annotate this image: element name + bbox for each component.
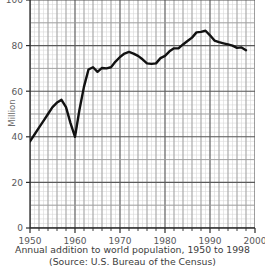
svg-text:0: 0 bbox=[17, 223, 23, 233]
svg-text:80: 80 bbox=[12, 41, 24, 51]
svg-text:20: 20 bbox=[12, 178, 24, 188]
x-axis-ticks bbox=[30, 228, 255, 233]
chart-caption-line-1: Annual addition to world population, 195… bbox=[0, 244, 265, 255]
y-axis-title: Million bbox=[7, 83, 17, 143]
chart-figure: 020406080100 195019601970198019902000 Mi… bbox=[0, 0, 265, 269]
line-chart-plot: 020406080100 195019601970198019902000 bbox=[0, 0, 265, 269]
svg-text:100: 100 bbox=[6, 0, 23, 5]
chart-caption-line-2: (Source: U.S. Bureau of the Census) bbox=[0, 256, 265, 267]
